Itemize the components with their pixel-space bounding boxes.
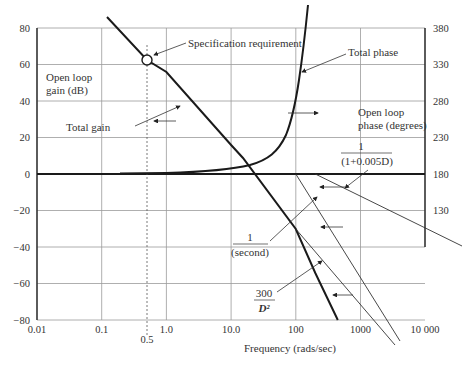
- gain-axis-label-line2: gain (dB): [46, 84, 88, 97]
- svg-text:1: 1: [358, 140, 364, 152]
- total-phase-leader: [302, 54, 346, 72]
- left-tick-labels: 80 60 40 20 0 −20 −40 −60 −80: [14, 23, 30, 326]
- svg-text:10 000: 10 000: [411, 324, 440, 335]
- specification-marker: [142, 55, 152, 65]
- svg-text:(second): (second): [231, 246, 269, 259]
- dd-fraction-label: 300 D²: [254, 287, 275, 314]
- svg-text:D²: D²: [257, 302, 270, 314]
- svg-text:180: 180: [433, 169, 449, 180]
- svg-text:20: 20: [20, 132, 31, 143]
- total-gain-curve: [107, 17, 338, 320]
- total-phase-label: Total phase: [348, 46, 398, 58]
- svg-text:300: 300: [256, 287, 273, 299]
- svg-text:100: 100: [288, 324, 304, 335]
- spec-leader: [154, 43, 186, 55]
- x-tick-labels: 0.01 0.1 1.0 10.0 100 1000 10 000 0.5: [28, 324, 440, 345]
- svg-text:0: 0: [25, 169, 30, 180]
- second-order-asymptote: [296, 174, 400, 341]
- right-tick-labels: 380 330 280 230 180 130: [433, 23, 449, 216]
- svg-text:280: 280: [433, 96, 449, 107]
- second-fraction-label: 1 (second): [231, 231, 269, 259]
- svg-text:(1+0.005D): (1+0.005D): [341, 155, 393, 168]
- svg-text:1.0: 1.0: [160, 324, 173, 335]
- svg-text:10.0: 10.0: [222, 324, 240, 335]
- svg-text:330: 330: [433, 59, 449, 70]
- svg-text:1000: 1000: [350, 324, 371, 335]
- phase-axis-label-line2: phase (degrees): [358, 119, 427, 132]
- svg-text:−20: −20: [14, 205, 30, 216]
- svg-text:80: 80: [20, 23, 31, 34]
- phase-axis-label-line1: Open loop: [358, 106, 405, 118]
- total-gain-leader: [135, 106, 180, 126]
- svg-text:130: 130: [433, 205, 449, 216]
- svg-text:380: 380: [433, 23, 449, 34]
- svg-text:1: 1: [247, 231, 253, 243]
- total-gain-label: Total gain: [66, 121, 111, 133]
- lag-fraction-label: 1 (1+0.005D): [341, 140, 393, 168]
- svg-text:0.1: 0.1: [95, 324, 108, 335]
- svg-text:60: 60: [20, 59, 31, 70]
- dd-leader: [277, 261, 322, 292]
- svg-text:−60: −60: [14, 278, 30, 289]
- svg-text:−40: −40: [14, 242, 30, 253]
- bode-plot: 80 60 40 20 0 −20 −40 −60 −80 380 330 28…: [0, 0, 462, 367]
- svg-text:0.5: 0.5: [140, 334, 153, 345]
- x-axis-title: Frequency (rads/sec): [244, 342, 336, 355]
- d-squared-asymptote: [296, 229, 395, 345]
- svg-text:40: 40: [20, 96, 31, 107]
- svg-text:0.01: 0.01: [28, 324, 46, 335]
- total-phase-curve: [120, 5, 308, 174]
- spec-label: Specification requirement: [188, 37, 302, 49]
- svg-text:230: 230: [433, 132, 449, 143]
- gain-axis-label-line1: Open loop: [46, 71, 93, 83]
- lag-leader: [345, 170, 368, 188]
